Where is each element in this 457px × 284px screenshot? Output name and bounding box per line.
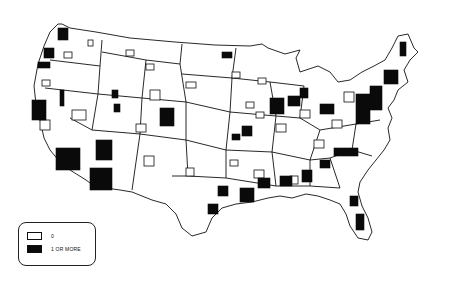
legend-swatch-zero	[27, 232, 42, 240]
legend-item-zero: 0	[27, 232, 54, 240]
legend: 0 1 OR MORE	[18, 222, 96, 266]
legend-label-one-or-more: 1 OR MORE	[51, 246, 81, 252]
legend-swatch-one-or-more	[27, 245, 42, 253]
legend-item-one-or-more: 1 OR MORE	[27, 245, 81, 253]
legend-label-zero: 0	[51, 233, 54, 239]
